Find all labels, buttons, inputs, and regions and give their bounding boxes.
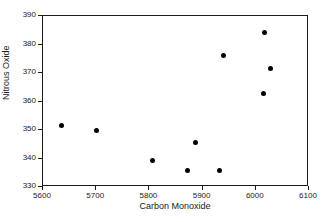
data-point — [59, 123, 64, 128]
scatter-chart: 330340350360370380390 560057005800590060… — [0, 0, 326, 222]
y-tick-mark — [38, 101, 42, 102]
y-tick-mark — [38, 15, 42, 16]
y-tick-mark — [38, 44, 42, 45]
y-tick-mark — [38, 72, 42, 73]
data-point — [185, 168, 190, 173]
y-tick-label: 350 — [23, 125, 36, 133]
y-tick-mark — [38, 129, 42, 130]
y-tick-label: 380 — [23, 40, 36, 48]
y-tick-label: 360 — [23, 97, 36, 105]
x-tick-label: 5700 — [86, 192, 104, 200]
data-point — [193, 140, 198, 145]
y-tick-label: 370 — [23, 68, 36, 76]
data-point — [217, 168, 222, 173]
x-tick-mark — [308, 186, 309, 190]
data-point — [221, 53, 226, 58]
y-tick-label: 340 — [23, 154, 36, 162]
x-tick-mark — [202, 186, 203, 190]
y-axis-title: Nitrous Oxide — [2, 45, 11, 100]
x-tick-mark — [95, 186, 96, 190]
x-tick-mark — [42, 186, 43, 190]
x-tick-mark — [148, 186, 149, 190]
x-tick-label: 6000 — [246, 192, 264, 200]
x-tick-label: 6100 — [299, 192, 317, 200]
plot-area: 330340350360370380390 560057005800590060… — [42, 15, 308, 186]
data-point — [150, 158, 155, 163]
x-tick-label: 5900 — [193, 192, 211, 200]
y-tick-label: 330 — [23, 182, 36, 190]
y-tick-label: 390 — [23, 11, 36, 19]
data-point — [261, 91, 266, 96]
x-tick-label: 5800 — [139, 192, 157, 200]
data-point — [262, 30, 267, 35]
x-tick-label: 5600 — [33, 192, 51, 200]
x-axis-title: Carbon Monoxide — [42, 202, 308, 211]
x-tick-mark — [255, 186, 256, 190]
y-tick-mark — [38, 158, 42, 159]
data-point — [94, 128, 99, 133]
data-point — [268, 66, 273, 71]
